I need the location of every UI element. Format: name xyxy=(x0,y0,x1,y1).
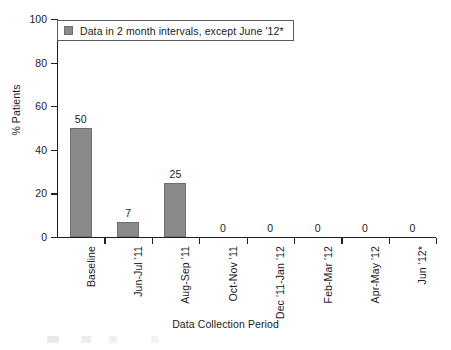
y-axis-tick xyxy=(51,150,57,151)
legend-label: Data in 2 month intervals, except June '… xyxy=(80,25,284,37)
y-axis-tick xyxy=(51,106,57,107)
bar xyxy=(164,183,186,238)
x-axis-tick xyxy=(152,238,153,244)
x-axis-category-label: Jun '12* xyxy=(416,246,428,284)
x-axis-tick xyxy=(294,238,295,244)
bar-value-label: 50 xyxy=(75,113,87,125)
bar-value-label: 0 xyxy=(220,222,226,234)
bar xyxy=(70,128,92,237)
bar xyxy=(117,222,139,237)
x-axis-category-label: Dec '11-Jan '12 xyxy=(274,246,286,319)
y-axis-tick-label: 20 xyxy=(21,187,47,199)
legend-swatch-icon xyxy=(64,26,73,35)
y-axis-line xyxy=(57,19,58,238)
y-axis-tick-label: 40 xyxy=(21,144,47,156)
x-axis-category-label: Apr-May '12 xyxy=(369,246,381,303)
y-axis-tick-label: 0 xyxy=(21,231,47,243)
bar-value-label: 0 xyxy=(409,222,415,234)
x-axis-category-label: Feb-Mar '12 xyxy=(322,246,334,303)
y-axis-tick-label: 60 xyxy=(21,100,47,112)
x-axis-tick xyxy=(199,238,200,244)
bar-value-label: 0 xyxy=(315,222,321,234)
y-axis-tick-label: 80 xyxy=(21,57,47,69)
x-axis-category-label: Aug-Sep '11 xyxy=(179,246,191,304)
x-axis-category-label: Baseline xyxy=(85,246,97,287)
x-axis-title: Data Collection Period xyxy=(0,318,451,330)
bar-value-label: 7 xyxy=(125,207,131,219)
y-axis-tick xyxy=(51,193,57,194)
chart-legend: Data in 2 month intervals, except June '… xyxy=(57,20,294,41)
y-axis-tick-label: 100 xyxy=(21,13,47,25)
x-axis-tick xyxy=(389,238,390,244)
x-axis-tick xyxy=(436,238,437,244)
bar-value-label: 25 xyxy=(170,168,182,180)
x-axis-tick xyxy=(247,238,248,244)
bar-chart-figure: % Patients 020406080100 5072500000 Basel… xyxy=(0,0,451,350)
x-axis-tick xyxy=(341,238,342,244)
y-axis-tick xyxy=(51,63,57,64)
bar-value-label: 0 xyxy=(267,222,273,234)
scan-artifact xyxy=(47,336,197,343)
x-axis-category-label: Oct-Nov '11 xyxy=(227,246,239,301)
x-axis-category-label: Jun-Jul '11 xyxy=(132,246,144,297)
x-axis-tick xyxy=(104,238,105,244)
bar-value-label: 0 xyxy=(362,222,368,234)
